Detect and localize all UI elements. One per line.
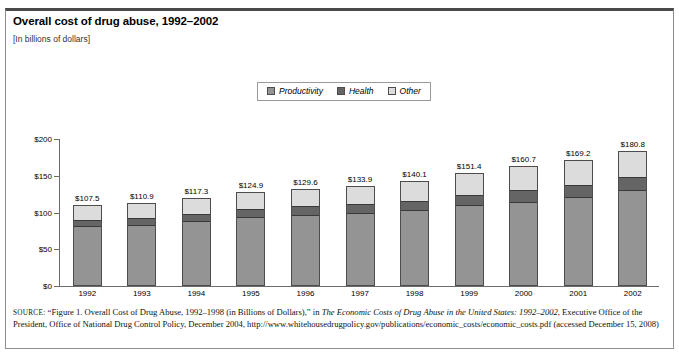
legend-label: Other: [400, 86, 421, 96]
bar-value-label: $117.3: [184, 187, 208, 196]
y-tick-label: $100: [34, 208, 52, 217]
bar-value-label: $140.1: [402, 170, 426, 179]
y-tick-label: $200: [34, 135, 52, 144]
bar-segment-prod[interactable]: [347, 213, 374, 285]
bar-segment-health[interactable]: [347, 204, 374, 213]
bar-segment-health[interactable]: [565, 185, 592, 197]
stacked-bar[interactable]: [509, 166, 538, 286]
y-tick-mark: [54, 176, 59, 177]
x-tick-label: 1993: [115, 289, 170, 305]
bar-segment-prod[interactable]: [128, 225, 155, 285]
stacked-bar[interactable]: [73, 205, 102, 286]
x-tick-label: 2001: [551, 289, 606, 305]
y-axis: $0$50$100$150$200: [18, 132, 52, 292]
bar-group[interactable]: $160.7: [496, 132, 551, 286]
x-tick-label: 1995: [224, 289, 279, 305]
x-axis-line: [59, 286, 659, 287]
bar-segment-health[interactable]: [183, 214, 210, 222]
stacked-bar[interactable]: [182, 198, 211, 286]
bar-group[interactable]: $169.2: [551, 132, 606, 286]
x-tick-label: 1996: [278, 289, 333, 305]
stacked-bar[interactable]: [346, 186, 375, 286]
bar-group[interactable]: $133.9: [333, 132, 388, 286]
bar-segment-health[interactable]: [456, 195, 483, 206]
bar-segment-other[interactable]: [619, 152, 646, 177]
bar-value-label: $169.2: [566, 149, 590, 158]
plot-area: $0$50$100$150$200 $107.5$110.9$117.3$124…: [18, 132, 663, 292]
legend-swatch-icon: [337, 87, 345, 95]
legend-item-other: Other: [388, 86, 421, 96]
stacked-bar[interactable]: [127, 203, 156, 286]
bar-segment-other[interactable]: [128, 204, 155, 218]
x-tick-label: 1992: [60, 289, 115, 305]
bar-value-label: $107.5: [75, 194, 99, 203]
bar-segment-other[interactable]: [565, 161, 592, 185]
bar-segment-health[interactable]: [619, 177, 646, 191]
stacked-bar[interactable]: [455, 173, 484, 286]
y-tick-label: $150: [34, 171, 52, 180]
bar-segment-prod[interactable]: [237, 217, 264, 285]
x-tick-label: 1998: [387, 289, 442, 305]
bar-value-label: $129.6: [293, 178, 317, 187]
bar-segment-other[interactable]: [510, 167, 537, 191]
bar-segment-prod[interactable]: [183, 221, 210, 285]
bar-value-label: $110.9: [130, 192, 154, 201]
stacked-bar[interactable]: [236, 192, 265, 286]
bar-segment-other[interactable]: [292, 190, 319, 206]
bar-segment-health[interactable]: [74, 220, 101, 227]
bar-value-label: $180.8: [621, 140, 645, 149]
bar-value-label: $133.9: [348, 175, 372, 184]
x-axis: 1992199319941995199619971998199920002001…: [60, 289, 660, 305]
bar-segment-other[interactable]: [237, 193, 264, 209]
bar-value-label: $151.4: [457, 162, 481, 171]
legend-item-productivity: Productivity: [267, 86, 323, 96]
bar-group[interactable]: $110.9: [115, 132, 170, 286]
bar-group[interactable]: $140.1: [387, 132, 442, 286]
bar-segment-other[interactable]: [347, 187, 374, 204]
source-text-part-1: “Figure 1. Overall Cost of Drug Abuse, 1…: [45, 307, 321, 317]
bar-group[interactable]: $124.9: [224, 132, 279, 286]
bar-segment-prod[interactable]: [565, 197, 592, 285]
x-tick-label: 1999: [442, 289, 497, 305]
bar-segment-other[interactable]: [401, 182, 428, 201]
bar-segment-prod[interactable]: [74, 226, 101, 285]
bar-group[interactable]: $180.8: [605, 132, 660, 286]
bar-segment-health[interactable]: [237, 209, 264, 217]
bar-segment-health[interactable]: [292, 206, 319, 215]
bar-segment-other[interactable]: [74, 206, 101, 220]
bar-segment-health[interactable]: [128, 218, 155, 225]
bar-segment-health[interactable]: [401, 201, 428, 211]
bar-segment-other[interactable]: [183, 199, 210, 214]
bar-segment-prod[interactable]: [292, 215, 319, 285]
stacked-bar[interactable]: [291, 189, 320, 286]
x-tick-label: 2002: [605, 289, 660, 305]
legend-swatch-icon: [388, 87, 396, 95]
bar-group[interactable]: $151.4: [442, 132, 497, 286]
bar-group[interactable]: $129.6: [278, 132, 333, 286]
bar-value-label: $160.7: [511, 155, 535, 164]
chart-page: Overall cost of drug abuse, 1992–2002 [I…: [0, 0, 679, 355]
stacked-bar[interactable]: [564, 160, 593, 286]
source-italic-title: The Economic Costs of Drug Abuse in the …: [322, 307, 558, 317]
legend-label: Productivity: [279, 86, 323, 96]
bar-segment-prod[interactable]: [510, 202, 537, 285]
bar-group[interactable]: $117.3: [169, 132, 224, 286]
source-note: SOURCE: “Figure 1. Overall Cost of Drug …: [13, 306, 663, 330]
bar-group[interactable]: $107.5: [60, 132, 115, 286]
x-tick-label: 1997: [333, 289, 388, 305]
bar-segment-prod[interactable]: [401, 210, 428, 285]
y-tick-mark: [54, 213, 59, 214]
legend-swatch-icon: [267, 87, 275, 95]
stacked-bar[interactable]: [400, 181, 429, 286]
bar-segment-prod[interactable]: [619, 190, 646, 285]
bar-segment-other[interactable]: [456, 174, 483, 195]
source-kicker: SOURCE:: [13, 309, 45, 317]
y-tick-mark: [54, 286, 59, 287]
x-tick-label: 2000: [496, 289, 551, 305]
bar-segment-prod[interactable]: [456, 205, 483, 285]
x-tick-label: 1994: [169, 289, 224, 305]
legend-label: Health: [349, 86, 374, 96]
stacked-bar[interactable]: [618, 151, 647, 286]
bar-segment-health[interactable]: [510, 190, 537, 201]
page-title: Overall cost of drug abuse, 1992–2002: [13, 15, 218, 27]
